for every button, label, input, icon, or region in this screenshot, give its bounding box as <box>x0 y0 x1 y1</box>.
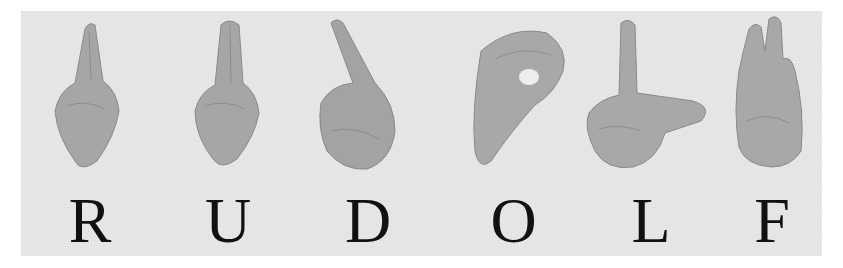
sign-l: L <box>581 11 721 256</box>
hand-d-icon <box>313 11 423 186</box>
letter-r: R <box>45 189 135 253</box>
fingerspelling-panel: R U D O L <box>21 11 822 256</box>
hand-r-icon <box>45 11 135 186</box>
letter-l: L <box>581 189 721 253</box>
hand-l-icon <box>581 11 721 186</box>
sign-u: U <box>183 11 273 256</box>
sign-d: D <box>313 11 423 256</box>
sign-r: R <box>45 11 135 256</box>
sign-f: F <box>727 11 817 256</box>
letter-f: F <box>727 189 817 253</box>
hand-f-icon <box>727 11 817 186</box>
hand-o-icon <box>451 11 576 186</box>
hand-u-icon <box>183 11 273 186</box>
sign-o: O <box>451 11 576 256</box>
letter-u: U <box>183 189 273 253</box>
letter-d: D <box>313 189 423 253</box>
letter-o: O <box>451 189 576 253</box>
